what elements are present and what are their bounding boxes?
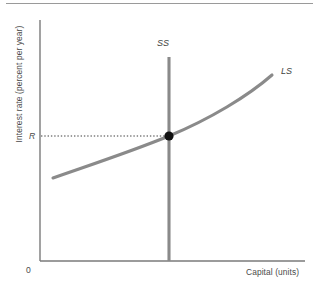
chart-figure: Interest rate (percent per year) Capital… xyxy=(0,0,319,291)
demand-curve-ls xyxy=(53,75,272,178)
y-axis-label: Interest rate (percent per year) xyxy=(14,19,24,149)
x-axis-label: Capital (units) xyxy=(246,267,299,277)
equilibrium-point-dot xyxy=(164,131,173,140)
equilibrium-rate-label: R xyxy=(29,131,35,141)
demand-curve-label: LS xyxy=(281,66,292,76)
supply-curve-label: SS xyxy=(157,38,169,48)
origin-label: 0 xyxy=(26,265,31,275)
